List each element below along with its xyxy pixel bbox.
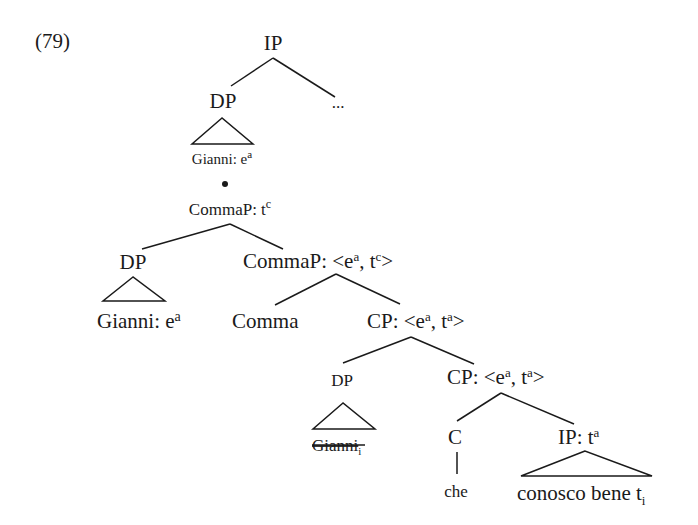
node-dp-left: DP <box>120 250 147 274</box>
triangle-dp-left <box>103 277 165 301</box>
node-ip-root: IP <box>264 31 283 55</box>
node-commap-top: CommaP: tc <box>189 197 271 219</box>
triangle-dp-spec <box>313 403 375 429</box>
syntax-tree-diagram: (79) IP DP ... Gianni: ea CommaP: tc DP … <box>0 0 698 525</box>
node-comma-head: Comma <box>232 309 299 333</box>
edge-commapbar-cp <box>336 274 400 304</box>
edge-cplower-c <box>457 393 501 421</box>
edge-ip-ellipsis <box>273 58 335 97</box>
leaf-gianni-top: Gianni: ea <box>192 148 252 167</box>
triangle-dp-top <box>192 118 253 144</box>
edge-ip-dp <box>231 58 273 86</box>
node-dp-top: DP <box>210 89 237 113</box>
edge-commap-dp <box>142 224 230 249</box>
leaf-gianni-struck: Giannii <box>312 436 361 457</box>
node-c-head: C <box>448 425 462 449</box>
node-dp-spec: DP <box>331 371 353 390</box>
edge-commapbar-comma <box>275 274 336 305</box>
bullet-icon <box>222 181 228 187</box>
leaf-che: che <box>444 482 468 501</box>
edge-cpupper-cplower <box>411 337 474 364</box>
node-cp-upper: CP: <ea, ta> <box>367 309 465 333</box>
edge-cplower-ip <box>501 393 574 424</box>
node-ip-low: IP: ta <box>558 425 600 449</box>
node-ellipsis: ... <box>332 93 345 112</box>
example-number: (79) <box>35 29 70 53</box>
leaf-gianni-left: Gianni: ea <box>97 309 182 333</box>
edge-cpupper-dp <box>343 337 411 363</box>
node-commap-bar: CommaP: <ea, tc> <box>243 249 393 273</box>
node-cp-lower: CP: <ea, ta> <box>447 365 545 389</box>
edge-commap-commapbar <box>230 224 283 249</box>
triangle-ip-low <box>521 451 652 476</box>
leaf-conosco-bene: conosco bene ti <box>517 481 646 508</box>
